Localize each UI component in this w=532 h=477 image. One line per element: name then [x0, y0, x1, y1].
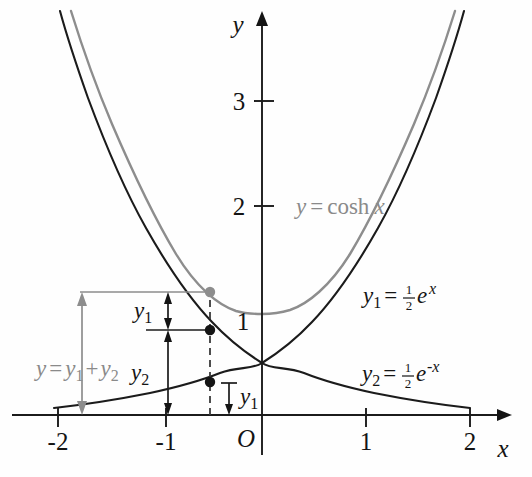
sum-label-plus: +	[85, 356, 98, 381]
label-y2-bracket: y2	[129, 360, 149, 388]
sum-label-t1-var: y	[63, 356, 76, 381]
y1-lower-arrow-head-down	[225, 404, 233, 415]
cosh-label-var: y	[294, 194, 307, 219]
y2-bracket-sub: 2	[141, 371, 149, 388]
sum-label-t1-sub: 1	[75, 367, 83, 384]
y1-frac-numerator: 1	[406, 282, 413, 297]
origin-label: O	[237, 425, 255, 452]
sum-label-t2-var: y	[98, 356, 111, 381]
svg-text:y1: y1	[238, 384, 258, 412]
x-axis-label: x	[496, 435, 508, 462]
svg-text:y1=: y1=	[361, 283, 397, 311]
label-sum-annotation: y=y1+y2	[34, 356, 119, 384]
sum-label-var: y	[34, 356, 47, 381]
svg-text:y1: y1	[132, 298, 152, 326]
label-y1-lower-bracket: y1	[238, 384, 258, 412]
cosh-label-arg: x	[373, 194, 385, 219]
x-tick-label-1: 1	[360, 428, 373, 455]
label-y1-upper-bracket: y1	[132, 298, 152, 326]
svg-text:y2=: y2=	[360, 361, 396, 389]
sum-label-t2-sub: 2	[111, 367, 119, 384]
x-tick-label--2: -2	[48, 428, 69, 455]
y2-frac-denominator: 2	[405, 376, 412, 391]
y1-frac-denominator: 2	[406, 298, 413, 313]
cosh-label-body: cosh	[327, 194, 370, 219]
curve-cosh	[71, 11, 455, 314]
y1-label-sub: 1	[373, 294, 381, 311]
sum-arrow-head-down	[77, 401, 87, 415]
label-y2-curve: y2= 1 2 e -x	[360, 358, 439, 391]
y-axis-label: y	[229, 11, 244, 38]
math-plot-svg: y x O -2 -1 1 2 1 2 3 y=coshx y1= 1 2 e	[0, 0, 532, 477]
point-on-y2	[205, 325, 215, 335]
y2-arrow-head-up	[164, 330, 172, 342]
x-tick-label--1: -1	[156, 428, 177, 455]
svg-text:y2: y2	[129, 360, 149, 388]
y1-label-var: y	[361, 283, 374, 308]
y-tick-label-2: 2	[233, 193, 246, 220]
y1-label-equals: =	[384, 283, 397, 308]
curve-y2	[60, 11, 470, 408]
y2-frac-numerator: 1	[405, 360, 412, 375]
label-y1-curve: y1= 1 2 e x	[361, 280, 436, 313]
sum-arrow-head-up	[77, 292, 87, 306]
y-tick-label-3: 3	[233, 88, 246, 115]
point-on-cosh	[205, 287, 215, 297]
x-axis-arrowhead	[497, 409, 512, 421]
y-tick-label-1: 1	[237, 308, 250, 335]
y1-lower-sub: 1	[250, 395, 258, 412]
y1-upper-var: y	[132, 298, 145, 323]
y2-exp-power: -x	[427, 358, 439, 375]
x-tick-label-2: 2	[464, 428, 477, 455]
y1-lower-var: y	[238, 384, 251, 409]
svg-text:y=y1+y2: y=y1+y2	[34, 356, 119, 384]
y1-upper-arrow-head-up	[164, 292, 172, 304]
y2-label-sub: 2	[372, 372, 380, 389]
sum-label-equals: =	[49, 356, 62, 381]
curve-y1	[54, 11, 464, 408]
y2-exp-base: e	[416, 361, 426, 386]
y2-label-equals: =	[383, 361, 396, 386]
y1-exp-power: x	[428, 280, 436, 297]
y1-upper-sub: 1	[144, 309, 152, 326]
point-on-y1	[205, 377, 215, 387]
y1-exp-base: e	[417, 283, 427, 308]
y-axis-arrowhead	[256, 11, 268, 26]
figure-container: y x O -2 -1 1 2 1 2 3 y=coshx y1= 1 2 e	[0, 0, 532, 477]
cosh-label-equals: =	[310, 194, 323, 219]
y2-bracket-var: y	[129, 360, 142, 385]
y2-label-var: y	[360, 361, 373, 386]
y1-upper-arrow-head-down	[164, 318, 172, 330]
